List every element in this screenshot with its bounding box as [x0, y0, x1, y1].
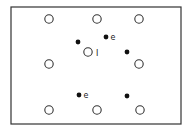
open-circle [93, 15, 101, 23]
open-circle [45, 60, 53, 68]
center-circle-label: I [96, 49, 98, 58]
filled-dot [125, 50, 130, 55]
open-circle [45, 106, 53, 114]
filled-dot [76, 40, 81, 45]
lattice-diagram: I e e [0, 0, 190, 132]
open-circle [93, 106, 101, 114]
open-circle [136, 106, 144, 114]
lower-left-dot-label: e [84, 91, 89, 100]
open-circle [45, 15, 53, 23]
open-circle [135, 60, 143, 68]
filled-dots [76, 35, 130, 99]
open-circles [45, 15, 144, 114]
filled-dot [125, 94, 130, 99]
top-dot-label: e [111, 33, 116, 42]
filled-dot [77, 93, 82, 98]
center-open-circle [84, 48, 92, 56]
filled-dot [104, 35, 109, 40]
open-circle [135, 15, 143, 23]
